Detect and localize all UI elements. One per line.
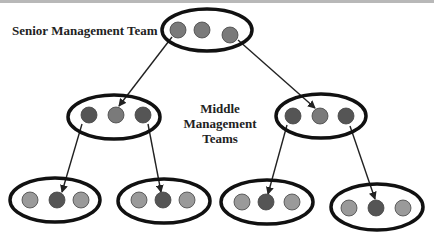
member-circle [81,107,97,123]
member-circle [73,192,89,208]
member-circle [395,200,411,216]
member-circle [338,108,354,124]
middle-label-line2: Management Teams [168,116,272,146]
member-circle [368,200,384,216]
member-circle [49,192,65,208]
team-senior [162,9,252,51]
team-bottom-2 [118,179,210,223]
member-circle [312,108,328,124]
team-bottom-4 [331,184,423,230]
member-circle [222,27,238,43]
member-circle [285,108,301,124]
member-circle [179,192,195,208]
member-circle [155,192,171,208]
member-circle [258,194,274,210]
senior-team-label: Senior Management Team [12,23,158,38]
member-circle [22,192,38,208]
member-circle [131,192,147,208]
arrow-connector [148,124,161,192]
team-middle-left [68,95,160,139]
member-circle [341,200,357,216]
arrow-connector [238,40,315,108]
member-circle [170,22,186,38]
team-bottom-3 [221,180,313,224]
member-circle [234,194,250,210]
member-circle [284,194,300,210]
middle-teams-label: Middle Management Teams [168,101,272,146]
middle-label-line1: Middle [168,101,272,116]
member-circle [194,22,210,38]
member-circle [108,107,124,123]
team-bottom-1 [10,178,100,222]
member-circle [135,107,151,123]
team-middle-right [276,94,366,138]
